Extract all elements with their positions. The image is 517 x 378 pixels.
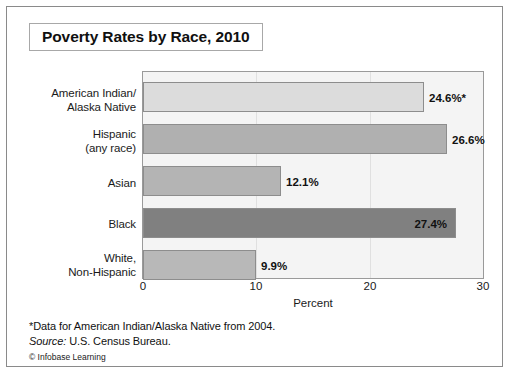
bar-value-hispanic: 26.6% — [452, 125, 485, 155]
category-label-black: Black — [29, 218, 136, 232]
footnote-asterisk: *Data for American Indian/Alaska Native … — [29, 319, 469, 334]
page-title: Poverty Rates by Race, 2010 — [42, 28, 250, 45]
copyright-line: © Infobase Learning — [29, 350, 469, 364]
bar-value-white-non-hispanic: 9.9% — [261, 251, 287, 281]
x-tick-20: 20 — [364, 280, 377, 292]
x-axis-title: Percent — [142, 297, 484, 309]
bar-american-indian: 24.6%* — [143, 82, 424, 112]
bar-value-american-indian: 24.6%* — [429, 83, 466, 113]
source-line: Source: U.S. Census Bureau. — [29, 334, 469, 349]
category-label-asian: Asian — [29, 177, 136, 191]
bar-value-black: 27.4% — [414, 209, 447, 239]
x-tick-10: 10 — [250, 280, 263, 292]
category-label-hispanic: Hispanic (any race) — [29, 128, 136, 155]
chart-figure: Poverty Rates by Race, 2010 American Ind… — [6, 6, 503, 367]
plot-area: 24.6%* 26.6% 12.1% 27.4% 9.9 — [142, 71, 484, 279]
chart-title-box: Poverty Rates by Race, 2010 — [29, 23, 263, 51]
bar-white-non-hispanic: 9.9% — [143, 250, 256, 280]
category-label-american-indian: American Indian/ Alaska Native — [29, 87, 136, 114]
category-axis: American Indian/ Alaska Native Hispanic … — [29, 71, 142, 279]
source-value: U.S. Census Bureau. — [66, 335, 170, 347]
source-label: Source: — [29, 335, 66, 347]
bar-hispanic: 26.6% — [143, 124, 447, 154]
x-tick-30: 30 — [477, 280, 490, 292]
chart-footnotes: *Data for American Indian/Alaska Native … — [29, 319, 469, 364]
bar-black: 27.4% — [143, 208, 456, 238]
x-tick-0: 0 — [140, 280, 146, 292]
bar-asian: 12.1% — [143, 166, 281, 196]
bar-chart: American Indian/ Alaska Native Hispanic … — [29, 71, 484, 293]
bar-value-asian: 12.1% — [286, 167, 319, 197]
category-label-white-non-hispanic: White, Non-Hispanic — [29, 252, 136, 279]
